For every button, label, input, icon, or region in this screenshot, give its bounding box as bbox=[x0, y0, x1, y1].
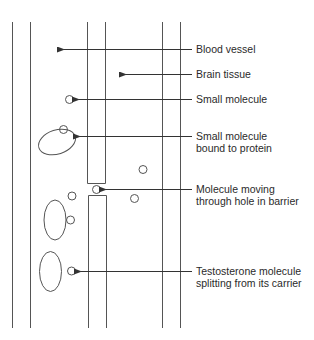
label-molecule-moving: Molecule moving through hole in barrier bbox=[196, 183, 299, 207]
label-blood-vessel: Blood vessel bbox=[196, 43, 256, 55]
label-line: splitting from its carrier bbox=[196, 277, 302, 289]
passing-molecule-icon bbox=[93, 186, 101, 194]
label-brain-tissue: Brain tissue bbox=[196, 68, 251, 80]
label-line: through hole in barrier bbox=[196, 195, 299, 207]
tissue-molecule-icon bbox=[139, 166, 147, 174]
label-line: Blood vessel bbox=[196, 43, 256, 55]
free-molecule-icon bbox=[68, 192, 76, 200]
diagram-canvas bbox=[0, 0, 314, 340]
label-line: Testosterone molecule bbox=[196, 265, 302, 277]
carrier-protein-icon bbox=[40, 252, 62, 292]
testosterone-molecule-icon bbox=[68, 267, 76, 275]
label-small-molecule: Small molecule bbox=[196, 93, 267, 105]
label-line: bound to protein bbox=[196, 142, 272, 154]
barrier-lower bbox=[89, 196, 107, 329]
label-line: Small molecule bbox=[196, 130, 272, 142]
carrier-protein-icon bbox=[35, 125, 79, 160]
tissue-molecule-icon bbox=[131, 195, 139, 203]
barrier-upper bbox=[88, 22, 106, 184]
label-small-molecule-bound: Small molecule bound to protein bbox=[196, 130, 272, 154]
bound-molecule-icon bbox=[67, 216, 75, 224]
label-testosterone: Testosterone molecule splitting from its… bbox=[196, 265, 302, 289]
label-line: Molecule moving bbox=[196, 183, 299, 195]
small-molecule-icon bbox=[66, 96, 74, 104]
carrier-protein-icon bbox=[44, 200, 66, 240]
label-line: Brain tissue bbox=[196, 68, 251, 80]
label-line: Small molecule bbox=[196, 93, 267, 105]
